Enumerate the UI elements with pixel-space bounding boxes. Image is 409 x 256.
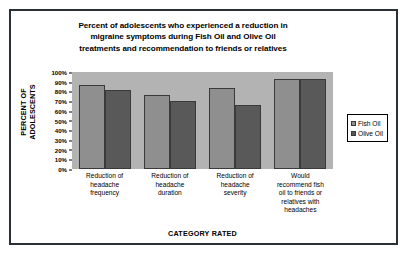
y-axis-tick: 10% (55, 156, 72, 163)
bar-group (203, 72, 268, 169)
x-tick-line: headache (204, 181, 267, 190)
x-tick-line: severity (204, 189, 267, 198)
y-axis-tick-mark (69, 169, 72, 170)
y-axis-tick-label: 100% (51, 69, 67, 76)
y-axis-tick: 100% (51, 69, 72, 76)
chart-title: Percent of adolescents who experienced a… (33, 20, 333, 54)
chart-title-line: migraine symptoms during Fish Oil and Ol… (33, 31, 333, 42)
bar-groups (72, 72, 333, 169)
x-tick-line: headache (73, 181, 136, 190)
bar-fish-oil[interactable] (209, 88, 235, 169)
x-axis-tick-label: Reduction of headache duration (137, 172, 202, 215)
x-tick-line: recommend fish (269, 181, 332, 190)
y-axis-tick-label: 70% (55, 98, 67, 105)
y-axis-tick-label: 30% (55, 136, 67, 143)
x-axis-tick-labels: Reduction of headache frequency Reductio… (72, 172, 333, 215)
y-axis-tick-label: 0% (58, 166, 67, 173)
y-axis-tick: 30% (55, 136, 72, 143)
legend-swatch-icon (351, 131, 356, 136)
y-axis-tick-label: 60% (55, 107, 67, 114)
x-tick-line: oil to friends or (269, 189, 332, 198)
y-axis-tick: 80% (55, 88, 72, 95)
x-tick-line: frequency (73, 189, 136, 198)
y-axis-tick: 0% (58, 166, 72, 173)
plot-frame: 100% 90% 80% 70% 60% 50% 40% 30% 20% 10%… (72, 72, 333, 169)
y-axis-title: PERCENT OF ADOLESCENTS (19, 62, 37, 162)
legend-item-fish-oil[interactable]: Fish Oil (351, 118, 383, 128)
x-axis-tick-label: Would recommend fish oil to friends or r… (268, 172, 333, 215)
x-axis-tick-label: Reduction of headache frequency (72, 172, 137, 215)
x-tick-line: headache (138, 181, 201, 190)
y-axis-tick-label: 90% (55, 78, 67, 85)
y-axis-tick-label: 80% (55, 88, 67, 95)
chart-legend: Fish Oil Olive Oil (347, 114, 388, 142)
bar-group (268, 72, 333, 169)
y-axis-tick: 70% (55, 98, 72, 105)
bar-olive-oil[interactable] (300, 79, 326, 169)
legend-label: Fish Oil (358, 120, 380, 127)
y-axis-tick-label: 20% (55, 146, 67, 153)
bar-fish-oil[interactable] (274, 79, 300, 169)
legend-item-olive-oil[interactable]: Olive Oil (351, 128, 383, 138)
bar-group (137, 72, 202, 169)
y-axis-tick-label: 10% (55, 156, 67, 163)
x-tick-line: relatives with (269, 198, 332, 207)
x-tick-line: headaches (269, 206, 332, 215)
legend-label: Olive Oil (358, 130, 383, 137)
x-tick-line: duration (138, 189, 201, 198)
legend-swatch-icon (351, 121, 356, 126)
y-axis-tick: 50% (55, 117, 72, 124)
bar-olive-oil[interactable] (105, 90, 131, 169)
bar-olive-oil[interactable] (235, 105, 261, 169)
y-axis-tick: 40% (55, 127, 72, 134)
y-axis-tick-label: 50% (55, 117, 67, 124)
y-axis-tick: 60% (55, 107, 72, 114)
chart-title-line: treatments and recommendation to friends… (33, 43, 333, 54)
chart-title-line: Percent of adolescents who experienced a… (33, 20, 333, 31)
y-axis-tick: 20% (55, 146, 72, 153)
bar-olive-oil[interactable] (170, 101, 196, 169)
x-axis-tick-label: Reduction of headache severity (203, 172, 268, 215)
bar-fish-oil[interactable] (144, 95, 170, 169)
bar-fish-oil[interactable] (79, 85, 105, 169)
chart-figure: Percent of adolescents who experienced a… (9, 9, 398, 245)
x-tick-line: Reduction of (204, 172, 267, 181)
x-axis-title: CATEGORY RATED (72, 229, 333, 238)
bar-group (72, 72, 137, 169)
x-tick-line: Reduction of (138, 172, 201, 181)
x-tick-line: Reduction of (73, 172, 136, 181)
y-axis-tick-label: 40% (55, 127, 67, 134)
x-tick-line: Would (269, 172, 332, 181)
y-axis-tick: 90% (55, 78, 72, 85)
